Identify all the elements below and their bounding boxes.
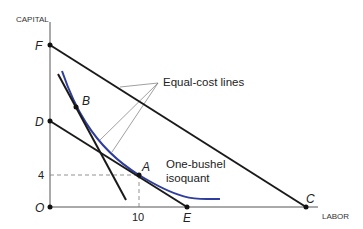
pointer-line-de bbox=[112, 83, 158, 152]
y-axis-label: CAPITAL bbox=[16, 15, 49, 24]
pointer-line-fc bbox=[120, 83, 158, 87]
x-axis-label: LABOR bbox=[322, 212, 349, 221]
point-f-marker bbox=[48, 43, 53, 48]
point-a-label: A bbox=[141, 160, 150, 174]
point-a-marker bbox=[137, 173, 142, 178]
point-d-marker bbox=[48, 119, 53, 124]
point-c-label: C bbox=[306, 192, 315, 206]
point-e-label: E bbox=[183, 211, 192, 225]
point-f-label: F bbox=[35, 39, 43, 53]
y-tick-4: 4 bbox=[38, 169, 44, 181]
point-e-marker bbox=[185, 205, 190, 210]
origin-marker bbox=[48, 205, 53, 210]
isoquant-label-line2: isoquant bbox=[166, 172, 210, 184]
equal-cost-lines-label: Equal-cost lines bbox=[163, 76, 244, 88]
equal-cost-line-steep bbox=[58, 74, 126, 200]
pointer-line-steep bbox=[100, 83, 158, 140]
point-b-marker bbox=[74, 105, 79, 110]
point-b-label: B bbox=[82, 94, 90, 108]
x-tick-10: 10 bbox=[132, 211, 144, 223]
isoquant-label-line1: One-bushel bbox=[166, 158, 225, 170]
point-d-label: D bbox=[35, 115, 44, 129]
isoquant-diagram: CAPITAL LABOR F D B A E C O 4 10 Equal-c… bbox=[0, 0, 363, 229]
origin-label: O bbox=[35, 201, 44, 215]
